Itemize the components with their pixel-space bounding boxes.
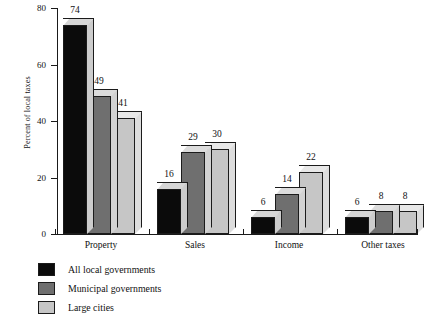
legend-label: Municipal governments xyxy=(68,281,161,296)
y-tick-mark xyxy=(51,121,58,122)
bar-value-label: 6 xyxy=(344,197,370,207)
bar-sales-series-0 xyxy=(157,189,181,234)
y-tick-mark xyxy=(51,178,58,179)
y-tick-label: 60 xyxy=(20,61,46,70)
legend-label: Large cities xyxy=(68,300,114,315)
x-tick-mark xyxy=(417,229,418,235)
bar-side-face xyxy=(135,111,142,234)
y-tick-mark xyxy=(51,65,58,66)
bar-value-label: 6 xyxy=(250,197,276,207)
x-tick-mark xyxy=(149,229,150,235)
bar-value-label: 14 xyxy=(274,174,300,184)
bar-value-label: 8 xyxy=(392,191,418,201)
bar-side-face xyxy=(205,145,212,234)
legend-label: All local governments xyxy=(68,262,155,277)
bar-value-label: 74 xyxy=(62,5,88,15)
x-tick-mark xyxy=(55,229,56,235)
bar-value-label: 16 xyxy=(156,169,182,179)
bar-value-label: 22 xyxy=(298,152,324,162)
bar-side-face xyxy=(111,89,118,234)
legend-swatch-icon xyxy=(38,263,55,276)
x-tick-mark xyxy=(337,229,338,235)
y-tick-label: 40 xyxy=(20,117,46,126)
y-tick-label: 0 xyxy=(20,230,46,239)
legend-swatch-icon xyxy=(38,282,55,295)
x-axis-label-income: Income xyxy=(244,240,334,251)
legend-swatch-icon xyxy=(38,301,55,314)
y-axis-title: Percent of local taxes xyxy=(23,38,32,188)
bar-property-series-0 xyxy=(63,25,87,234)
bar-side-face xyxy=(87,18,94,234)
bar-value-label: 30 xyxy=(204,129,230,139)
x-axis-label-property: Property xyxy=(56,240,146,251)
x-axis-line xyxy=(57,234,417,235)
y-tick-mark xyxy=(51,8,58,9)
bar-other-taxes-series-0 xyxy=(345,217,369,234)
bar-value-label: 29 xyxy=(180,132,206,142)
bar-value-label: 8 xyxy=(368,191,394,201)
x-tick-mark xyxy=(243,229,244,235)
y-tick-label: 80 xyxy=(20,4,46,13)
x-axis-label-other-taxes: Other taxes xyxy=(338,240,428,251)
bar-side-face xyxy=(229,142,236,234)
bar-income-series-0 xyxy=(251,217,275,234)
bar-side-face xyxy=(323,165,330,234)
x-axis-label-sales: Sales xyxy=(150,240,240,251)
y-tick-label: 20 xyxy=(20,174,46,183)
